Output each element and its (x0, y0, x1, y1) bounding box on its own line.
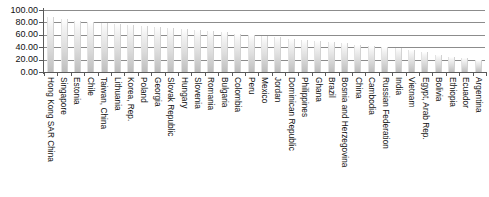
y-axis-tick-label: 0.00 (20, 68, 38, 77)
x-axis-tick-label: India (395, 77, 403, 95)
x-axis-label-slot: Poland (138, 77, 151, 195)
x-axis-tick (218, 72, 219, 76)
x-axis-tick-label: China (354, 77, 362, 99)
y-axis-tick-label: 60.00 (15, 30, 38, 39)
bar-slot (351, 10, 364, 72)
x-axis-tick (446, 72, 447, 76)
x-axis-tick-label: Peru (247, 77, 255, 95)
bar-slot (57, 10, 70, 72)
bar (408, 50, 415, 72)
bar-slot (284, 10, 297, 72)
bar-slot (244, 10, 257, 72)
bar-slot (378, 10, 391, 72)
bar-slot (431, 10, 444, 72)
x-axis-tick (84, 72, 85, 76)
x-axis-tick-label: Ecuador (462, 77, 470, 108)
bar (288, 39, 295, 72)
x-axis-tick (57, 72, 58, 76)
bar (127, 25, 134, 72)
bar-slot (44, 10, 57, 72)
x-axis-label-slot: Peru (245, 77, 258, 195)
x-axis-tick (432, 72, 433, 76)
bar (114, 24, 121, 72)
x-axis-label-slot: Russian Federation (379, 77, 392, 195)
x-axis-tick (44, 72, 45, 76)
x-axis-tick-label: Ghana (314, 77, 322, 102)
y-axis-tick-label: 100.00 (10, 6, 38, 15)
y-axis-tick-label: 80.00 (15, 18, 38, 27)
y-axis-tick-label: 40.00 (15, 43, 38, 52)
bar-slot (84, 10, 97, 72)
y-axis-tick-label: 20.00 (15, 55, 38, 64)
x-axis-tick-label: Mexico (261, 77, 269, 103)
x-axis-tick-label: Ethiopia (448, 77, 456, 107)
x-axis-tick (111, 72, 112, 76)
x-axis-label-slot: Romania (205, 77, 218, 195)
bar-slot (472, 10, 485, 72)
x-axis-tick (392, 72, 393, 76)
x-axis-tick-label: Argentina (475, 77, 483, 113)
x-axis-tick (473, 72, 474, 76)
x-axis-tick-label: Georgia (154, 77, 162, 107)
x-axis-tick (312, 72, 313, 76)
x-axis-tick (258, 72, 259, 76)
x-axis-tick (459, 72, 460, 76)
x-axis-label-slot: Jordan (272, 77, 285, 195)
bar-slot (271, 10, 284, 72)
bar-slot (191, 10, 204, 72)
bar (381, 47, 388, 72)
x-axis-tick-label: Colombia (234, 77, 242, 112)
bar-slot (71, 10, 84, 72)
bar-chart: 0.0020.0040.0060.0080.00100.00 Hong Kong… (0, 0, 489, 197)
x-axis-label-slot: Slovak Republic (165, 77, 178, 195)
x-axis-label-slot: Chile (84, 77, 97, 195)
bar (421, 52, 428, 72)
bar-slot (445, 10, 458, 72)
x-axis-tick (98, 72, 99, 76)
x-axis-tick-label: Estonia (73, 77, 81, 105)
x-axis-label-slot: Bulgaria (218, 77, 231, 195)
x-axis-tick-label: Korea, Rep. (127, 77, 135, 121)
x-axis-label-slot: Philippines (298, 77, 311, 195)
x-axis-tick (406, 72, 407, 76)
x-axis-tick (138, 72, 139, 76)
bar (154, 27, 161, 72)
bar-slot (218, 10, 231, 72)
x-axis-tick-label: Romania (207, 77, 215, 110)
bar (248, 35, 255, 72)
bar (141, 26, 148, 73)
bar-slot (338, 10, 351, 72)
x-axis-ticks (44, 72, 485, 76)
x-axis-label-slot: Hong Kong SAR China (44, 77, 57, 195)
bar-slot (138, 10, 151, 72)
bar (261, 36, 268, 72)
bar-slot (365, 10, 378, 72)
x-axis-tick (325, 72, 326, 76)
x-axis-label-slot: Georgia (151, 77, 164, 195)
bar-slot (258, 10, 271, 72)
bar (301, 40, 308, 72)
bar (314, 41, 321, 72)
bar-slot (458, 10, 471, 72)
x-axis-tick-label: Vietnam (408, 77, 416, 107)
x-axis-tick-label: Lithuania (113, 77, 121, 111)
x-axis-tick-label: Brazil (328, 77, 336, 98)
x-axis-tick (285, 72, 286, 76)
x-axis-tick-label: Egypt, Arab Rep. (421, 77, 429, 140)
x-axis-tick (365, 72, 366, 76)
x-axis-tick (151, 72, 152, 76)
bar-slot (325, 10, 338, 72)
x-axis-label-slot: Bosnia and Herzegovina (339, 77, 352, 195)
x-axis-label-slot: Bolivia (432, 77, 445, 195)
bar-slot (231, 10, 244, 72)
x-axis-tick (165, 72, 166, 76)
x-axis-label-slot: Ethiopia (446, 77, 459, 195)
x-axis-tick (178, 72, 179, 76)
x-axis-label-slot: China (352, 77, 365, 195)
x-axis-label-slot: India (392, 77, 405, 195)
bar (221, 32, 228, 72)
bar (47, 17, 54, 72)
bar (395, 48, 402, 72)
x-axis-label-slot: Dominican Republic (285, 77, 298, 195)
x-axis-tick (232, 72, 233, 76)
